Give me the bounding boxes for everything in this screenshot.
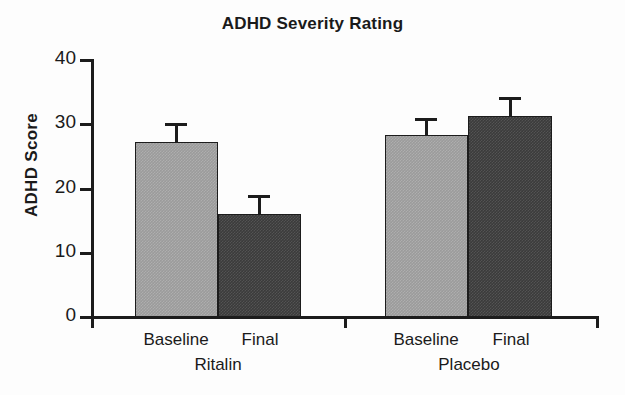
x-tick-group-separator — [344, 316, 347, 328]
y-tick-10 — [80, 252, 92, 255]
y-tick-40 — [80, 59, 92, 62]
error-bar-cap-placebo-baseline — [415, 118, 437, 121]
error-bar-cap-ritalin-final — [248, 195, 270, 198]
x-group-label-placebo: Placebo — [379, 355, 559, 375]
error-bar-stem-placebo-final — [509, 97, 512, 117]
x-group-label-ritalin: Ritalin — [128, 355, 308, 375]
adhd-severity-bar-chart: ADHD Severity Rating 40 30 20 10 0 ADHD … — [0, 0, 625, 395]
x-tick-left — [91, 316, 94, 328]
error-bar-cap-ritalin-baseline — [165, 123, 187, 126]
bar-ritalin-final — [218, 214, 301, 317]
bar-placebo-final — [468, 116, 552, 317]
error-bar-cap-placebo-final — [499, 97, 521, 100]
error-bar-stem-ritalin-final — [258, 195, 261, 215]
x-label-ritalin-final: Final — [210, 330, 310, 350]
y-axis-title: ADHD Score — [22, 85, 42, 245]
y-tick-20 — [80, 188, 92, 191]
bar-placebo-baseline — [385, 135, 468, 317]
chart-title: ADHD Severity Rating — [0, 14, 625, 34]
y-tick-label-0: 0 — [28, 304, 76, 326]
y-tick-label-40: 40 — [28, 47, 76, 69]
error-bar-stem-placebo-baseline — [425, 118, 428, 136]
x-tick-right — [596, 316, 599, 328]
y-tick-30 — [80, 123, 92, 126]
bar-ritalin-baseline — [135, 142, 218, 317]
x-label-placebo-final: Final — [461, 330, 561, 350]
error-bar-stem-ritalin-baseline — [175, 123, 178, 143]
